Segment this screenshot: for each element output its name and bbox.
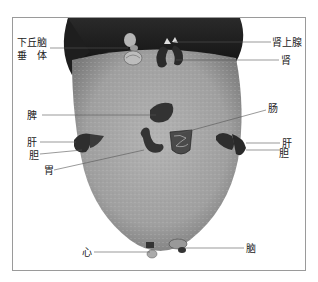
label-stomach: 胃: [44, 165, 54, 176]
label-kidney: 肾: [281, 55, 291, 66]
label-adrenal: 肾上腺: [272, 37, 302, 48]
pituitary-organ: [124, 51, 142, 65]
label-spleen: 脾: [27, 110, 37, 121]
label-gallbladder-right: 胆: [279, 148, 289, 159]
label-heart: 心: [82, 247, 92, 258]
tongue-diagram: [0, 0, 318, 282]
label-pituitary: 垂 体: [17, 50, 47, 61]
label-hypothalamus: 下丘脑: [17, 37, 47, 48]
label-liver-left: 肝: [27, 137, 37, 148]
label-brain: 脑: [246, 243, 256, 254]
label-intestine: 肠: [268, 103, 278, 114]
label-gallbladder-left: 胆: [29, 150, 39, 161]
intestine-organ: [170, 130, 192, 154]
brain-organ: [169, 239, 187, 253]
